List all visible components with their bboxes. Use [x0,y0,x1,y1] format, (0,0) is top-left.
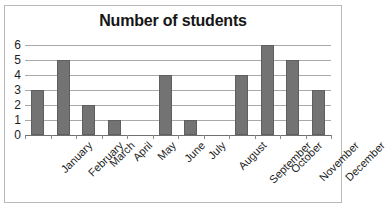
bar-slot [76,45,102,135]
x-tick [331,135,332,139]
bar[interactable] [31,90,44,135]
plot-area: 0123456 [25,45,331,135]
x-tick-label-text: May [155,139,178,162]
x-tick-label-text: April [130,139,154,163]
x-tick-label-text: August [236,139,269,172]
chart-frame: Number of students 0123456 JanuaryFebrua… [4,5,342,203]
x-tick-label-august: August [236,139,269,172]
bar-slot [25,45,51,135]
bar[interactable] [184,120,197,135]
bar[interactable] [82,105,95,135]
bar[interactable] [57,60,70,135]
bar-slot [127,45,153,135]
y-tick-label-4: 4 [14,69,21,81]
y-tick-label-1: 1 [14,114,21,126]
y-tick-label-3: 3 [14,84,21,96]
y-tick-label-0: 0 [14,129,21,141]
x-tick-label-april: April [130,139,154,163]
bar-slot [153,45,179,135]
bar[interactable] [286,60,299,135]
x-tick-label-text: June [182,139,207,164]
bar-slot [178,45,204,135]
bar-slot [229,45,255,135]
y-tick-label-2: 2 [14,99,21,111]
x-axis-labels: JanuaryFebruaryMarchAprilMayJuneJulyAugu… [25,137,331,199]
bar-slot [204,45,230,135]
bar[interactable] [312,90,325,135]
bar[interactable] [108,120,121,135]
bar-slot [280,45,306,135]
y-tick-label-6: 6 [14,39,21,51]
x-tick-label-june: June [182,139,207,164]
bar-series [25,45,331,135]
y-tick-label-5: 5 [14,54,21,66]
bar[interactable] [261,45,274,135]
x-tick-label-july: July [206,139,228,161]
bar[interactable] [159,75,172,135]
bar-slot [51,45,77,135]
x-tick-label-may: May [155,139,178,162]
bar-slot [102,45,128,135]
x-tick-label-text: July [206,139,228,161]
bar-slot [306,45,332,135]
bar[interactable] [235,75,248,135]
bar-slot [255,45,281,135]
chart-title: Number of students [5,12,341,30]
